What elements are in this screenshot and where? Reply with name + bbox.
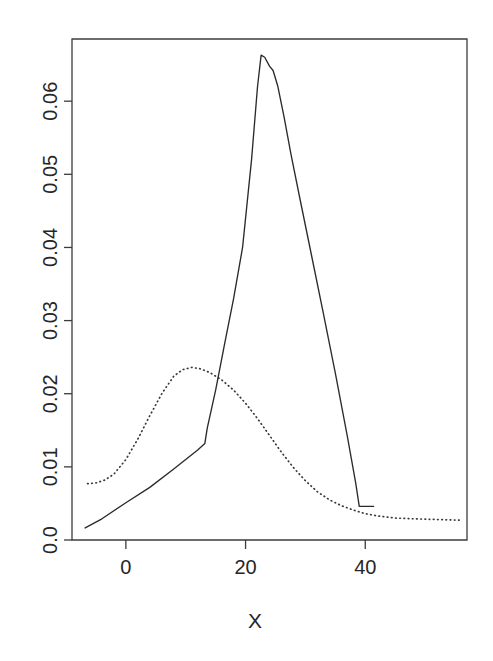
density-line-chart: 0.00.010.020.030.040.050.06 02040 X	[0, 0, 493, 661]
y-tick-label: 0.0	[39, 526, 61, 554]
y-tick-label: 0.04	[39, 228, 61, 267]
x-tick-label: 40	[354, 556, 376, 578]
y-tick-label: 0.02	[39, 374, 61, 413]
x-tick-label: 20	[234, 556, 256, 578]
x-axis-title: X	[248, 609, 262, 632]
y-tick-label: 0.01	[39, 447, 61, 486]
chart-figure: 0.00.010.020.030.040.050.06 02040 X	[0, 0, 493, 661]
y-tick-label: 0.03	[39, 301, 61, 340]
x-tick-label: 0	[120, 556, 131, 578]
y-tick-label: 0.06	[39, 82, 61, 121]
y-tick-label: 0.05	[39, 155, 61, 194]
